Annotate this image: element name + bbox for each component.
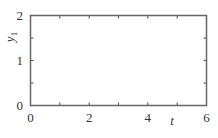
y-axis-ticks: [31, 38, 207, 83]
chart: 0246 012 t y1: [0, 0, 218, 138]
x-tick-label: 0: [27, 110, 34, 125]
y-tick-label: 2: [17, 8, 24, 23]
x-axis-tick-labels: 0246: [27, 110, 210, 125]
y-axis-label-subscript: 1: [9, 32, 19, 37]
x-tick-label: 4: [145, 110, 152, 125]
y-axis-label: y1: [2, 32, 19, 44]
x-axis-ticks: [60, 16, 177, 106]
y-tick-label: 0: [17, 98, 24, 113]
x-tick-label: 2: [86, 110, 93, 125]
x-axis-label: t: [170, 113, 174, 128]
y-axis-tick-labels: 012: [17, 8, 24, 113]
x-tick-label: 6: [203, 110, 210, 125]
plot-frame: [31, 16, 207, 106]
y-tick-label: 1: [17, 53, 24, 68]
